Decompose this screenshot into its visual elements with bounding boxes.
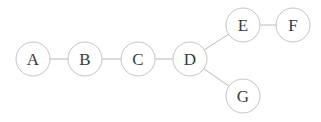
- graph-node-f[interactable]: F: [276, 8, 310, 42]
- node-label-b: B: [79, 50, 90, 69]
- node-label-f: F: [288, 16, 297, 35]
- graph-canvas: ABCDEFG: [0, 0, 321, 122]
- graph-node-e[interactable]: E: [226, 8, 260, 42]
- node-label-g: G: [237, 87, 249, 106]
- graph-edge-d-g: [204, 69, 229, 87]
- graph-node-g[interactable]: G: [226, 79, 260, 113]
- graph-node-b[interactable]: B: [68, 42, 102, 76]
- graph-node-c[interactable]: C: [121, 42, 155, 76]
- graph-edge-d-e: [204, 34, 228, 50]
- node-label-e: E: [238, 16, 248, 35]
- node-label-d: D: [184, 50, 196, 69]
- graph-diagram: ABCDEFG: [0, 0, 321, 122]
- nodes-layer: ABCDEFG: [16, 8, 310, 113]
- node-label-c: C: [132, 50, 143, 69]
- graph-node-d[interactable]: D: [173, 42, 207, 76]
- graph-node-a[interactable]: A: [16, 42, 50, 76]
- node-label-a: A: [27, 50, 40, 69]
